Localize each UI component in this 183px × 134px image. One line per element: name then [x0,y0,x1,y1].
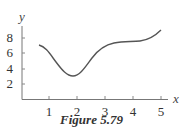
x-axis-label: x [172,91,179,106]
y-tick-label: 2 [7,76,14,91]
x-ticks [49,96,161,99]
y-tick-label: 4 [7,61,14,76]
data-curve [39,30,161,76]
y-axis-label: y [17,9,25,24]
y-tick-label: 6 [7,45,14,60]
figure-caption: Figure 5.79 [0,112,183,128]
y-tick-label: 8 [7,30,14,45]
